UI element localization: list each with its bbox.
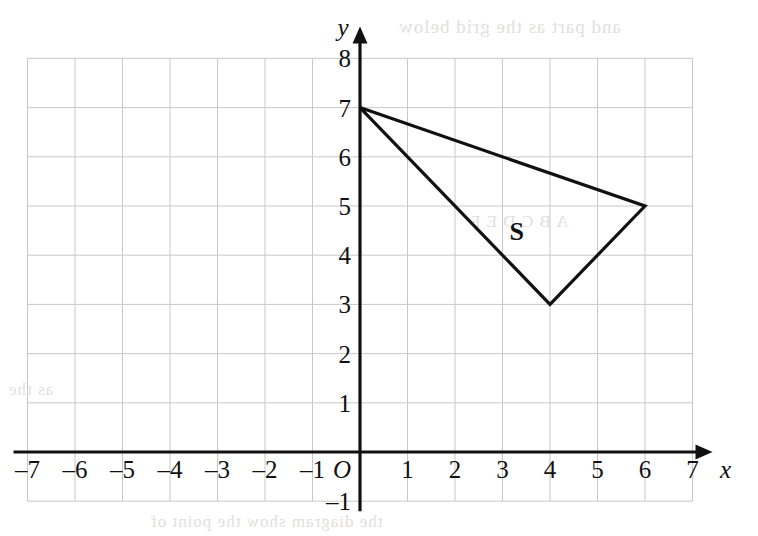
y-tick-label: 4 xyxy=(339,242,352,269)
x-tick-label: –6 xyxy=(62,456,88,483)
x-axis-name-label: x xyxy=(719,456,731,483)
x-tick-label: 2 xyxy=(449,456,462,483)
y-tick-label: 8 xyxy=(339,45,352,72)
x-tick-label: 1 xyxy=(401,456,414,483)
x-tick-label: –7 xyxy=(14,456,40,483)
x-tick-label: 7 xyxy=(686,456,699,483)
coordinate-grid-figure: and part as the grid below as the A B C … xyxy=(0,0,758,536)
x-axis-tick-labels: –7–6–5–4–3–2–11234567 xyxy=(14,456,699,483)
x-tick-label: 4 xyxy=(544,456,557,483)
axes xyxy=(14,26,713,511)
y-tick-label: 3 xyxy=(339,291,352,318)
x-tick-label: –5 xyxy=(109,456,135,483)
y-tick-label: 7 xyxy=(339,95,352,122)
y-tick-label: 1 xyxy=(339,390,352,417)
y-tick-label: –1 xyxy=(325,488,351,515)
y-tick-label: 6 xyxy=(339,144,352,171)
y-axis-tick-labels: –112345678O xyxy=(325,45,352,515)
x-tick-label: –2 xyxy=(252,456,278,483)
y-tick-label: 5 xyxy=(339,193,352,220)
coordinate-plane: –7–6–5–4–3–2–11234567 –112345678O S xy xyxy=(0,0,758,536)
x-tick-label: –4 xyxy=(157,456,184,483)
y-axis-arrowhead xyxy=(353,26,368,43)
shape-label-s: S xyxy=(510,217,524,246)
x-tick-label: 5 xyxy=(591,456,604,483)
origin-label: O xyxy=(333,456,351,483)
x-tick-label: –3 xyxy=(204,456,230,483)
y-axis-name-label: y xyxy=(334,14,349,41)
x-tick-label: 3 xyxy=(496,456,509,483)
x-tick-label: –1 xyxy=(299,456,325,483)
x-tick-label: 6 xyxy=(639,456,652,483)
axis-name-labels: xy xyxy=(334,14,731,483)
y-tick-label: 2 xyxy=(339,341,352,368)
